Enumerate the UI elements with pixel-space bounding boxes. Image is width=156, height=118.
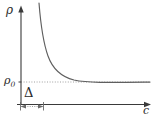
x-axis-label: c — [143, 105, 149, 116]
rho-decay-curve — [39, 3, 150, 82]
y-axis-arrowhead — [18, 6, 23, 13]
rho0-subscript: 0 — [10, 80, 15, 89]
plot-canvas — [0, 0, 156, 118]
rho-vs-c-figure: ρ c ρ0 Δ — [0, 0, 156, 118]
delta-right-arrowhead — [38, 105, 44, 109]
y-axis-label: ρ — [6, 4, 13, 16]
delta-left-arrowhead — [21, 105, 27, 109]
delta-label: Δ — [24, 86, 33, 99]
y-intercept-label: ρ0 — [4, 75, 15, 89]
